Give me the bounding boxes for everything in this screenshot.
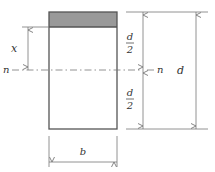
d-half-bottom-label: d 2	[126, 87, 134, 111]
neutral-axis-label-right: n	[157, 64, 163, 75]
d-half-top-label: d 2	[126, 31, 134, 55]
b-label: b	[80, 146, 86, 157]
cross-section-diagram: n n x d 2 d 2 d b	[0, 0, 215, 172]
section-rectangle	[49, 12, 117, 129]
section-outline	[49, 12, 117, 129]
d-half-top-numerator: d	[127, 31, 133, 42]
d-half-top-denominator: 2	[126, 44, 133, 55]
d-dimension: d	[177, 12, 196, 129]
d-half-bottom-denominator: 2	[126, 100, 133, 111]
half-depth-dimensions: d 2 d 2	[126, 12, 143, 129]
compression-zone-shading	[49, 12, 117, 27]
neutral-axis-label-left: n	[3, 64, 9, 75]
x-dimension: x	[11, 27, 49, 70]
d-label: d	[177, 64, 184, 77]
x-label: x	[11, 42, 18, 55]
d-half-bottom-numerator: d	[127, 87, 133, 98]
b-dimension: b	[49, 136, 117, 167]
neutral-axis: n n	[3, 64, 163, 75]
